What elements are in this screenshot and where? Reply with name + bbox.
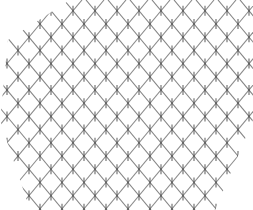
lattice-lines xyxy=(0,0,253,210)
crosshatch-drawing xyxy=(0,0,253,210)
lattice-artwork xyxy=(0,0,253,210)
